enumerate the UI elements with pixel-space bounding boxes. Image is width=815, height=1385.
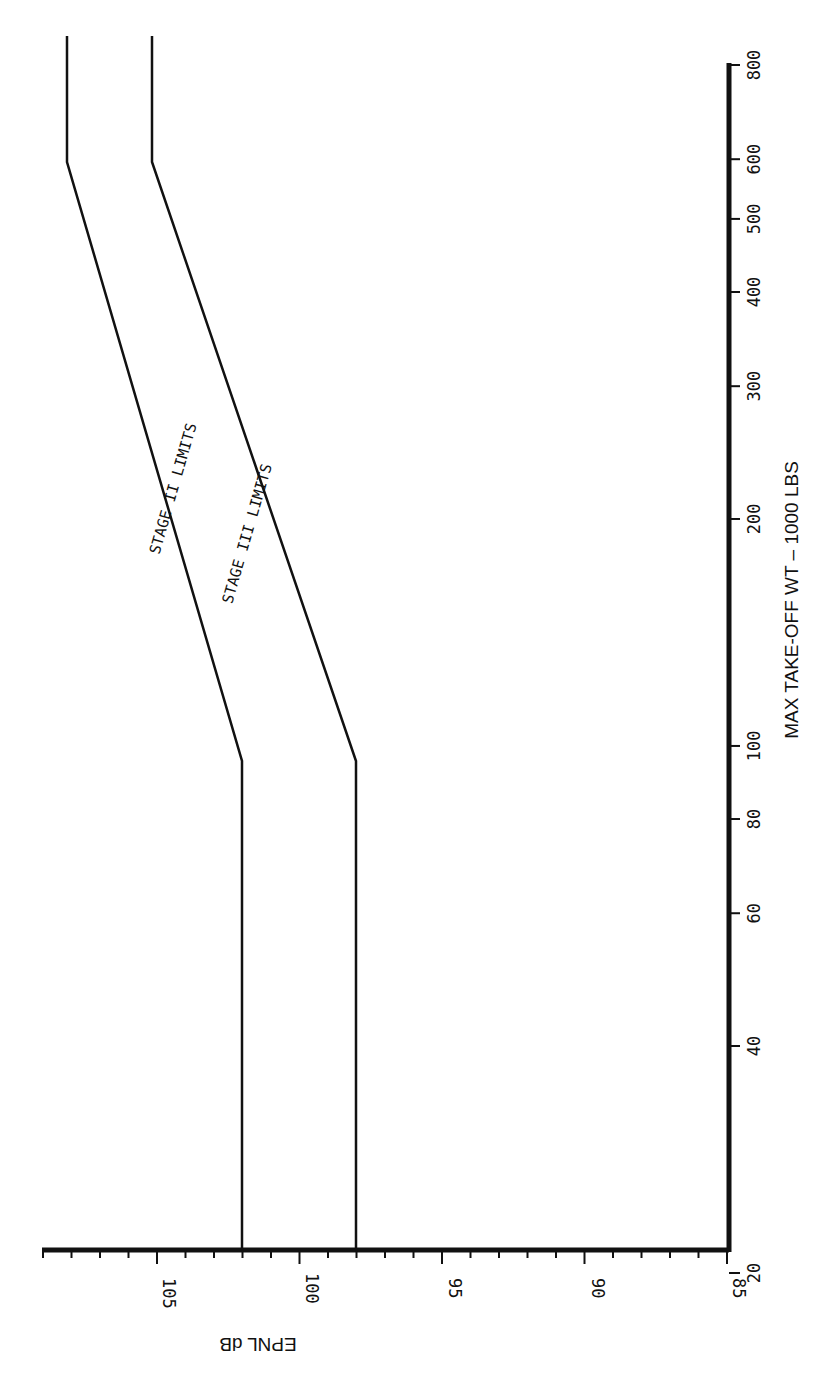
weight-tick-600: 600	[744, 144, 764, 175]
stage-2-line	[67, 36, 242, 1250]
epnl-tick-100: 100	[302, 1273, 322, 1304]
weight-tick-60: 60	[744, 903, 764, 923]
epnl-axis-title: EPNL dB	[219, 1334, 296, 1355]
chart: 105 100 95 90 85 EPNL dB 204060801002003…	[0, 0, 815, 1385]
weight-tick-800: 800	[744, 50, 764, 81]
epnl-axis: 105 100 95 90 85 EPNL dB	[42, 1250, 749, 1355]
weight-tick-300: 300	[744, 371, 764, 402]
weight-tick-80: 80	[744, 809, 764, 829]
stage-2-label: STAGE II LIMITS	[146, 421, 201, 556]
stage-3-line	[152, 36, 356, 1250]
weight-axis: 20406080100200300400500600800 MAX TAKE-O…	[729, 50, 802, 1284]
weight-tick-100: 100	[744, 731, 764, 762]
weight-tick-500: 500	[744, 204, 764, 235]
weight-axis-title: MAX TAKE-OFF WT – 1000 LBS	[781, 461, 802, 739]
weight-tick-400: 400	[744, 277, 764, 308]
weight-tick-40: 40	[744, 1036, 764, 1056]
epnl-tick-95: 95	[445, 1278, 465, 1298]
epnl-tick-105: 105	[159, 1278, 179, 1309]
stage-3-label: STAGE III LIMITS	[219, 462, 276, 606]
epnl-tick-90: 90	[588, 1278, 608, 1298]
weight-tick-20: 20	[744, 1263, 764, 1283]
weight-tick-200: 200	[744, 504, 764, 535]
